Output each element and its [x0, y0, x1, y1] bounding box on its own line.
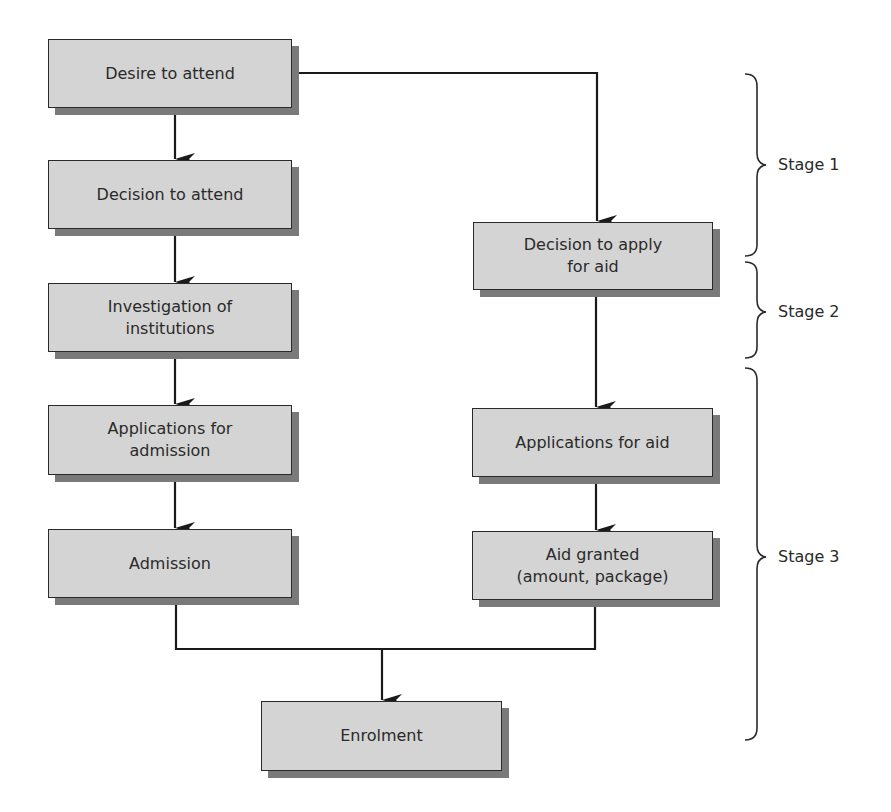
node-aid-granted: Aid granted (amount, package) [472, 531, 713, 600]
node-enrolment: Enrolment [261, 701, 502, 771]
node-investigation-of-institutions: Investigation of institutions [48, 283, 292, 352]
node-label: Applications for admission [108, 418, 233, 462]
merge-line [176, 598, 595, 649]
node-desire-to-attend: Desire to attend [48, 39, 292, 108]
node-label: Aid granted (amount, package) [517, 544, 669, 588]
stage-2-label: Stage 2 [778, 302, 840, 322]
stage-1-brace [745, 74, 766, 256]
node-applications-for-aid: Applications for aid [472, 408, 713, 477]
node-label: Decision to attend [97, 184, 244, 206]
stage-3-label: Stage 3 [778, 547, 840, 567]
node-label: Desire to attend [105, 63, 235, 85]
node-decision-to-attend: Decision to attend [48, 160, 292, 229]
node-label: Enrolment [340, 725, 423, 747]
stage-1-label: Stage 1 [778, 155, 840, 175]
stage-2-brace [745, 262, 766, 358]
node-applications-for-admission: Applications for admission [48, 405, 292, 475]
node-label: Investigation of institutions [108, 296, 232, 340]
arrow-desire-to-decision-aid [292, 73, 597, 221]
stage-3-brace [745, 368, 766, 740]
node-decision-to-apply-for-aid: Decision to apply for aid [473, 222, 713, 290]
node-label: Decision to apply for aid [524, 234, 662, 278]
node-label: Applications for aid [515, 432, 669, 454]
node-admission: Admission [48, 529, 292, 598]
flow-diagram: Desire to attend Decision to attend Inve… [0, 0, 891, 812]
node-label: Admission [129, 553, 211, 575]
